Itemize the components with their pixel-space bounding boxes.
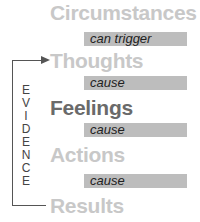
connector-cause-2: cause (84, 123, 187, 137)
arrowhead-icon (41, 56, 50, 64)
connector-can-trigger: can trigger (84, 32, 187, 46)
connector-cause-1: cause (84, 76, 187, 90)
feedback-line-top (12, 60, 44, 61)
feedback-line-vertical (12, 60, 13, 206)
evidence-label: E V I D E N C E (21, 84, 31, 188)
connector-cause-3: cause (84, 174, 187, 188)
node-results: Results (50, 195, 124, 217)
node-circumstances: Circumstances (50, 2, 197, 24)
evidence-letter: E (21, 175, 31, 188)
node-thoughts: Thoughts (50, 50, 143, 72)
node-feelings: Feelings (50, 97, 133, 119)
feedback-line-bottom (12, 205, 46, 206)
node-actions: Actions (50, 144, 125, 166)
